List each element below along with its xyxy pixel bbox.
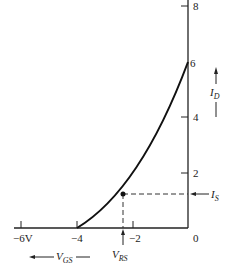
operating-point <box>121 192 126 197</box>
x-tick-label: 0 <box>193 232 199 244</box>
y-tick-label: 6 <box>190 57 196 69</box>
transfer-curve <box>77 62 188 228</box>
arrow-up-icon <box>214 67 218 74</box>
x-tick-label: −4 <box>71 232 83 244</box>
jfet-transfer-chart: −6V −4 −2 0 8 6 4 2 ID IS VGS VRS <box>0 0 227 270</box>
arrow-up-icon <box>121 229 125 235</box>
vgs-label: VGS <box>56 250 73 265</box>
vrs-label: VRS <box>112 248 128 263</box>
y-tick-label: 8 <box>193 0 199 12</box>
y-tick-label: 2 <box>193 167 199 179</box>
arrow-left-icon <box>190 192 196 196</box>
x-tick-label: −6V <box>13 232 33 244</box>
arrow-left-icon <box>29 255 35 259</box>
y-tick-label: 4 <box>193 111 199 123</box>
is-label: IS <box>210 188 219 203</box>
x-tick-label: −2 <box>129 232 141 244</box>
